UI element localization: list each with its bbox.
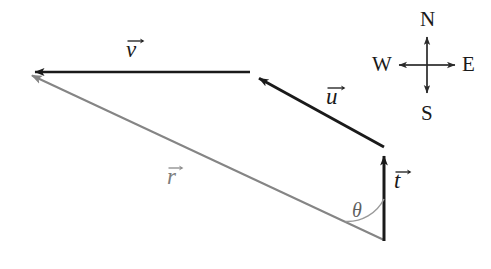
compass-label-west: W [372,54,392,75]
vector-label-v: v [126,36,136,61]
vector-label-t: t [394,167,400,192]
vector-u-line [259,78,384,147]
vector-label-t-glyph: t [394,168,400,193]
vector-label-u-glyph: u [326,84,338,109]
compass-label-south: S [421,103,433,124]
vector-diagram-figure: v u t [0,0,491,269]
diagram-canvas [0,0,491,269]
compass-label-north: N [420,9,435,30]
compass-label-east: E [462,54,475,75]
vector-label-u: u [326,83,338,108]
vector-label-r: r [167,163,176,188]
vector-label-v-glyph: v [126,37,136,62]
vector-label-r-glyph: r [167,164,176,189]
angle-label-theta: θ [352,200,362,220]
compass-rose [399,37,455,93]
